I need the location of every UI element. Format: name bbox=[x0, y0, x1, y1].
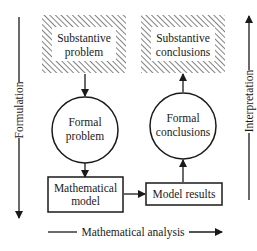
node-mathematical-model: Mathematical model bbox=[48, 177, 123, 212]
node-formal-problem: Formal problem bbox=[52, 97, 118, 163]
node-label-line1: Mathematical bbox=[54, 182, 117, 194]
mathematical-analysis-axis: Mathematical analysis bbox=[48, 226, 222, 239]
formulation-axis: Formulation bbox=[13, 17, 25, 218]
interpretation-label: Interpretation bbox=[243, 69, 256, 132]
node-label-line2: model bbox=[71, 195, 100, 207]
node-substantive-problem: Substantive problem bbox=[42, 15, 126, 73]
node-label-line2: conclusions bbox=[156, 126, 211, 138]
formulation-label: Formulation bbox=[13, 81, 25, 138]
node-label: Model results bbox=[153, 188, 216, 200]
node-formal-conclusions: Formal conclusions bbox=[150, 93, 216, 159]
mathematical-analysis-label: Mathematical analysis bbox=[81, 226, 185, 239]
node-label-line1: Formal bbox=[68, 116, 101, 128]
node-label-line1: Substantive bbox=[156, 32, 210, 44]
node-substantive-conclusions: Substantive conclusions bbox=[141, 15, 225, 73]
modeling-process-diagram: Formulation Interpretation Substantive p… bbox=[0, 0, 257, 251]
node-label-line1: Formal bbox=[166, 112, 199, 124]
interpretation-axis: Interpretation bbox=[243, 16, 256, 200]
node-label-line2: problem bbox=[66, 130, 104, 143]
node-model-results: Model results bbox=[146, 183, 222, 205]
node-label-line2: conclusions bbox=[156, 46, 211, 58]
node-label-line1: Substantive bbox=[57, 32, 111, 44]
node-label-line2: problem bbox=[65, 46, 103, 59]
